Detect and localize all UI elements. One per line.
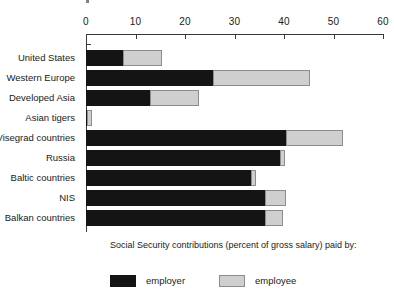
x-axis-tick-label: 30 — [229, 17, 241, 27]
x-axis-tick-label: 60 — [377, 17, 389, 27]
bar-segment-employee — [280, 150, 285, 166]
bar-segment-employer — [86, 90, 150, 106]
x-axis-tick — [136, 34, 137, 39]
bar-segment-employee — [213, 70, 310, 86]
legend-swatch-employer-icon — [110, 275, 136, 287]
category-label: Russia — [0, 152, 75, 163]
legend-swatch-employee-icon — [219, 275, 245, 287]
bar-row: Russia — [0, 148, 394, 168]
bar-segment-employer — [86, 70, 213, 86]
category-label: United States — [0, 52, 75, 63]
category-label: NIS — [0, 192, 75, 203]
bar-row: Balkan countries — [0, 208, 394, 228]
x-axis-tick — [185, 34, 186, 39]
legend-item-employee: employee — [219, 275, 296, 287]
x-axis-tick — [235, 34, 236, 39]
bar-row: Baltic countries — [0, 168, 394, 188]
bar-segment-employee — [123, 50, 163, 66]
x-axis-tick-label: 0 — [83, 17, 89, 27]
bar-segment-employee — [150, 90, 199, 106]
bar-row: Developed Asia — [0, 88, 394, 108]
legend-label-employer: employer — [146, 275, 185, 287]
bar-row: United States — [0, 48, 394, 68]
x-axis-tick — [383, 34, 384, 39]
bar-segment-employee — [87, 110, 92, 126]
x-axis-tick — [334, 34, 335, 39]
bar-segment-employer — [86, 50, 123, 66]
legend-item-employer: employer — [110, 275, 185, 287]
stacked-bar-chart: 0102030405060 United StatesWestern Europ… — [0, 0, 394, 305]
chart-caption: Social Security contributions (percent o… — [110, 240, 360, 251]
x-axis-tick-label: 50 — [328, 17, 340, 27]
x-axis-tick-label: 20 — [179, 17, 191, 27]
bar-row: Western Europe — [0, 68, 394, 88]
bar-segment-employer — [86, 150, 280, 166]
bar-segment-employer — [86, 190, 265, 206]
category-label: Western Europe — [0, 72, 75, 83]
x-axis-tick-label: 40 — [278, 17, 290, 27]
bar-segment-employer — [86, 210, 265, 226]
chart-legend: employer employee — [110, 275, 296, 287]
bar-segment-employer — [86, 170, 251, 186]
scan-artifact — [86, 0, 89, 3]
category-label: Baltic countries — [0, 172, 75, 183]
bar-segment-employer — [86, 130, 286, 146]
category-label: Developed Asia — [0, 92, 75, 103]
bar-row: Visegrad countries — [0, 128, 394, 148]
x-axis-tick-label: 10 — [130, 17, 142, 27]
bar-segment-employee — [251, 170, 256, 186]
category-label: Balkan countries — [0, 212, 75, 223]
bar-row: NIS — [0, 188, 394, 208]
x-axis-tick — [284, 34, 285, 39]
bar-row: Asian tigers — [0, 108, 394, 128]
category-label: Visegrad countries — [0, 132, 75, 143]
category-label: Asian tigers — [0, 112, 75, 123]
legend-label-employee: employee — [255, 275, 296, 287]
bar-segment-employee — [265, 210, 283, 226]
bar-segment-employee — [286, 130, 343, 146]
bar-segment-employee — [265, 190, 286, 206]
